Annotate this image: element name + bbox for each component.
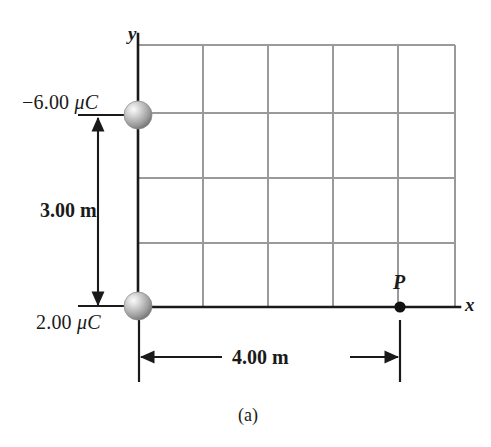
figure-container: −6.00 μC 2.00 μC 3.00 m 4.00 m y x P (a) bbox=[0, 0, 491, 447]
lower-charge-sphere bbox=[124, 292, 152, 320]
point-p-label: P bbox=[393, 272, 405, 292]
grid-lines bbox=[138, 45, 455, 307]
horizontal-dimension-label: 4.00 m bbox=[232, 347, 289, 367]
x-axis-label: x bbox=[465, 295, 475, 314]
upper-charge-value: −6.00 bbox=[22, 91, 74, 113]
physics-diagram bbox=[0, 0, 491, 447]
lower-charge-value: 2.00 bbox=[36, 311, 77, 333]
axes bbox=[138, 34, 460, 307]
lower-charge-unit: μC bbox=[77, 311, 101, 333]
vertical-dimension-label: 3.00 m bbox=[40, 200, 97, 220]
upper-charge-label: −6.00 μC bbox=[22, 92, 98, 112]
figure-caption: (a) bbox=[238, 406, 258, 424]
y-axis-label: y bbox=[128, 24, 136, 43]
point-p-marker bbox=[394, 301, 405, 312]
lower-charge-label: 2.00 μC bbox=[36, 312, 101, 332]
upper-charge-unit: μC bbox=[74, 91, 98, 113]
upper-charge-sphere bbox=[124, 101, 152, 129]
